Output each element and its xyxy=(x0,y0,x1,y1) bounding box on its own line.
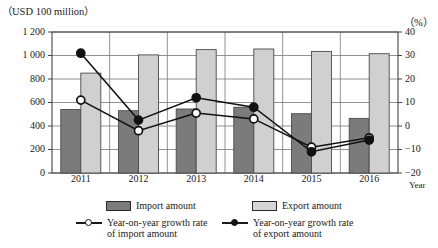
y2-axis-tick-label: 10 xyxy=(405,96,415,107)
legend-label-export-line-2: of export amount xyxy=(222,228,353,239)
legend-label-export-line-1: Year-on-year growth rate xyxy=(253,217,353,228)
legend-item-export-line: Year-on-year growth rate of export amoun… xyxy=(222,216,353,239)
y2-axis-tick-label: 30 xyxy=(405,49,415,60)
y-axis-tick-label: 400 xyxy=(0,120,45,131)
plot-area xyxy=(0,0,438,248)
y2-axis-tick-label: −20 xyxy=(405,167,421,178)
legend-label-import-line-2: of import amount xyxy=(76,228,207,239)
combo-chart: （USD 100 million） （%） 02004006008001 000… xyxy=(0,0,438,248)
y-axis-tick-label: 200 xyxy=(0,143,45,154)
export-bar-swatch-icon xyxy=(252,201,277,211)
legend-item-import-bar: Import amount xyxy=(106,199,196,211)
x-axis-category-label: 2011 xyxy=(54,173,108,184)
x-axis-title: Year xyxy=(409,180,426,190)
y-axis-tick-label: 800 xyxy=(0,73,45,84)
y-axis-tick-label: 600 xyxy=(0,96,45,107)
filled-circle-marker-icon xyxy=(222,218,248,227)
x-axis-category-label: 2014 xyxy=(227,173,281,184)
y-axis-tick-label: 0 xyxy=(0,167,45,178)
import-bar-swatch-icon xyxy=(106,201,131,211)
y2-axis-tick-label: 0 xyxy=(405,120,410,131)
legend-label-export-bar: Export amount xyxy=(282,200,342,211)
open-circle-marker-icon xyxy=(76,218,102,227)
x-axis-category-label: 2015 xyxy=(285,173,339,184)
y2-axis-tick-label: −10 xyxy=(405,143,421,154)
legend-label-import-bar: Import amount xyxy=(136,200,196,211)
x-axis-category-label: 2012 xyxy=(112,173,166,184)
y2-axis-tick-label: 20 xyxy=(405,73,415,84)
legend-item-import-line: Year-on-year growth rate of import amoun… xyxy=(76,216,207,239)
x-axis-category-label: 2016 xyxy=(342,173,396,184)
legend-label-import-line-1: Year-on-year growth rate xyxy=(107,217,207,228)
y-axis-tick-label: 1 200 xyxy=(0,26,45,37)
y-axis-tick-label: 1 000 xyxy=(0,49,45,60)
y2-axis-tick-label: 40 xyxy=(405,26,415,37)
x-axis-category-label: 2013 xyxy=(169,173,223,184)
legend-item-export-bar: Export amount xyxy=(252,199,342,211)
